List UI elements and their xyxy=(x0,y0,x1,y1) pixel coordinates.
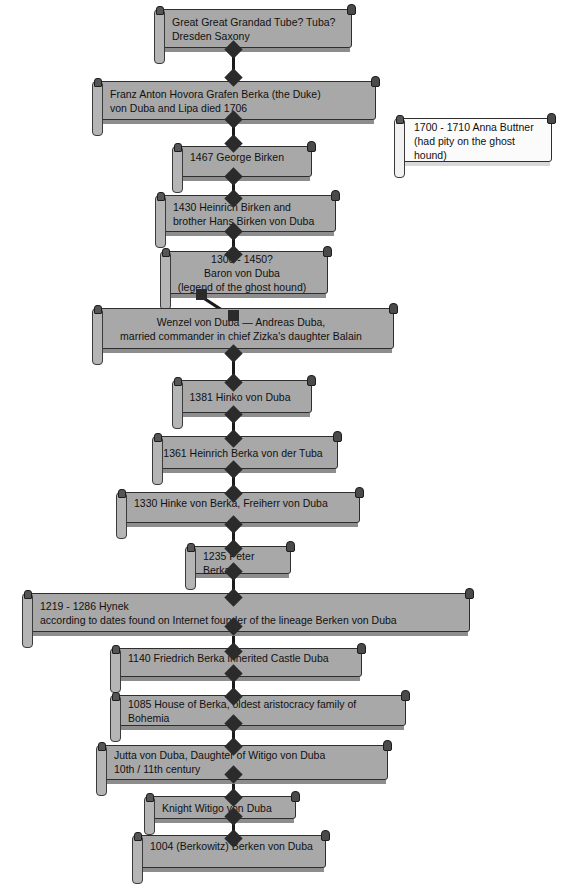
node-label: 1467 George Birken xyxy=(190,150,302,164)
scroll-roll-icon xyxy=(92,81,103,136)
scroll-roll-icon xyxy=(394,118,405,178)
node-shadow xyxy=(120,726,404,730)
scroll-curl-left-icon xyxy=(146,793,154,802)
node-house-of-berka[interactable]: 1085 House of Berka, oldest aristocracy … xyxy=(106,690,406,732)
scroll-curl-right-icon xyxy=(371,76,380,87)
scroll-curl-left-icon xyxy=(112,692,120,701)
scroll-roll-icon xyxy=(96,745,107,796)
node-label: Knight Witigo von Duba xyxy=(162,801,286,815)
node-shadow xyxy=(182,413,310,417)
scroll-curl-left-icon xyxy=(118,489,126,498)
scroll-curl-right-icon xyxy=(307,375,316,386)
node-shadow xyxy=(142,868,324,872)
scroll-curl-left-icon xyxy=(157,192,165,201)
node-shadow xyxy=(32,632,468,636)
node-shadow xyxy=(102,349,392,353)
scroll-curl-right-icon xyxy=(333,431,342,442)
node-label: Wenzel von Duba — Andreas Duba, married … xyxy=(98,315,384,343)
node-shadow xyxy=(182,177,310,181)
scroll-curl-right-icon xyxy=(321,830,330,841)
scroll-curl-left-icon xyxy=(112,645,120,654)
scroll-curl-left-icon xyxy=(174,377,182,386)
scroll-curl-right-icon xyxy=(383,740,392,751)
scroll-curl-left-icon xyxy=(94,78,102,87)
scroll-curl-right-icon xyxy=(286,541,295,552)
node-anna-buttner[interactable]: 1700 - 1710 Anna Buttner (had pity on th… xyxy=(390,113,552,168)
scroll-curl-left-icon xyxy=(134,832,142,841)
node-shadow xyxy=(106,780,386,784)
scroll-curl-right-icon xyxy=(401,690,410,701)
node-label: Jutta von Duba, Daughter of Witigo von D… xyxy=(114,748,378,776)
node-hynek[interactable]: 1219 - 1286 Hynek according to dates fou… xyxy=(18,588,470,638)
node-label: 1219 - 1286 Hynek according to dates fou… xyxy=(40,599,460,627)
scroll-roll-icon xyxy=(154,9,165,64)
node-wenzel-von-duba[interactable]: Wenzel von Duba — Andreas Duba, married … xyxy=(88,303,394,355)
node-label: 1330 Hinke von Berka, Freiherr von Duba xyxy=(134,496,350,510)
scroll-curl-right-icon xyxy=(357,643,366,654)
scroll-curl-left-icon xyxy=(154,433,162,442)
node-heinrich-berka-von-der-tuba[interactable]: 1361 Heinrich Berka von der Tuba xyxy=(148,431,338,475)
node-label: 1430 Heinrich Birken and brother Hans Bi… xyxy=(173,200,326,228)
node-label: 1085 House of Berka, oldest aristocracy … xyxy=(128,697,396,725)
node-heinrich-birken[interactable]: 1430 Heinrich Birken and brother Hans Bi… xyxy=(151,190,336,238)
node-knight-witigo[interactable]: Knight Witigo von Duba xyxy=(140,791,296,825)
scroll-curl-right-icon xyxy=(465,588,474,599)
scroll-curl-right-icon xyxy=(389,303,398,314)
scroll-curl-right-icon xyxy=(547,113,556,124)
scroll-roll-icon xyxy=(185,546,196,590)
scroll-curl-right-icon xyxy=(323,246,332,257)
scroll-roll-icon xyxy=(110,648,121,693)
node-shadow xyxy=(154,819,294,823)
connector-node-square xyxy=(228,310,239,321)
scroll-curl-left-icon xyxy=(174,143,182,152)
node-shadow xyxy=(120,677,360,681)
node-great-great-grandad[interactable]: Great Great Grandad Tube? Tuba? Dresden … xyxy=(150,4,352,54)
scroll-curl-left-icon xyxy=(24,590,32,599)
scroll-curl-left-icon xyxy=(94,305,102,314)
node-label: Great Great Grandad Tube? Tuba? Dresden … xyxy=(172,15,342,43)
scroll-curl-right-icon xyxy=(307,141,316,152)
node-label: Franz Anton Hovora Grafen Berka (the Duk… xyxy=(110,87,366,115)
genealogy-diagram-canvas: Great Great Grandad Tube? Tuba? Dresden … xyxy=(0,0,562,893)
node-shadow xyxy=(164,48,350,52)
node-label: 1300 - 1450? Baron von Duba (legend of t… xyxy=(166,252,318,294)
connector-node-square xyxy=(196,289,207,300)
scroll-roll-icon xyxy=(155,195,166,248)
node-label: 1235 Peter Berka xyxy=(203,549,281,577)
scroll-roll-icon xyxy=(172,146,183,193)
node-label: 1700 - 1710 Anna Buttner (had pity on th… xyxy=(414,120,542,162)
scroll-roll-icon xyxy=(152,436,163,485)
scroll-curl-right-icon xyxy=(331,190,340,201)
scroll-roll-icon xyxy=(132,835,143,884)
scroll-curl-left-icon xyxy=(98,742,106,751)
scroll-curl-right-icon xyxy=(291,791,300,802)
node-label: 1381 Hinko von Duba xyxy=(178,390,302,404)
scroll-curl-left-icon xyxy=(187,543,195,552)
scroll-curl-right-icon xyxy=(347,4,356,15)
scroll-roll-icon xyxy=(110,695,121,742)
scroll-curl-right-icon xyxy=(355,487,364,498)
node-shadow xyxy=(170,294,326,298)
node-shadow xyxy=(165,232,334,236)
scroll-roll-icon xyxy=(172,380,183,429)
node-shadow xyxy=(162,469,336,473)
node-label: 1361 Heinrich Berka von der Tuba xyxy=(158,446,328,460)
scroll-roll-icon xyxy=(22,593,33,648)
scroll-curl-left-icon xyxy=(396,115,404,124)
node-shadow xyxy=(404,162,550,166)
scroll-curl-left-icon xyxy=(156,6,164,15)
scroll-roll-icon xyxy=(116,492,127,539)
